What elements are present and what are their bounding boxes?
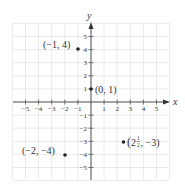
y-tick-label: 5 (84, 33, 88, 41)
x-tick-label: 5 (155, 105, 159, 113)
y-tick-label: −3 (80, 138, 88, 146)
x-tick-label: 2 (115, 105, 119, 113)
y-tick-label: 2 (84, 72, 88, 80)
point-label-0-1: (0, 1) (95, 84, 117, 96)
svg-text:2: 2 (131, 137, 136, 148)
point-neg2-neg4 (63, 153, 67, 157)
x-tick-label: −4 (35, 105, 43, 113)
x-tick-label: 3 (129, 105, 133, 113)
point-2half-neg3 (122, 140, 126, 144)
x-tick-label: −3 (48, 105, 56, 113)
coordinate-plane: x y −5−4−3−2−11234554321−1−2−3−4−5 (−1, … (0, 0, 185, 190)
point-label-neg1-4: (−1, 4) (43, 39, 70, 51)
x-tick-label: 1 (102, 105, 106, 113)
y-tick-label: −5 (80, 164, 88, 172)
x-axis-label: x (172, 96, 178, 107)
y-tick-label: 1 (84, 85, 88, 93)
point-0-1 (89, 87, 93, 91)
y-tick-label: 4 (84, 46, 88, 54)
x-tick-label: −5 (22, 105, 30, 113)
y-tick-label: −2 (80, 125, 88, 133)
point-label-2half-neg3: ( 2 1 2 , −3) (127, 135, 159, 149)
y-tick-label: −1 (80, 112, 88, 120)
point-label-neg2-neg4: (−2, −4) (22, 145, 55, 157)
x-tick-label: −2 (61, 105, 69, 113)
x-axis-arrow-icon (163, 100, 170, 105)
y-tick-label: −4 (80, 151, 88, 159)
y-axis-label: y (86, 10, 92, 21)
y-axis-arrow-icon (89, 22, 94, 29)
point-neg1-4 (76, 47, 80, 51)
y-tick-label: 3 (84, 59, 88, 67)
svg-text:, −3): , −3) (141, 137, 160, 149)
x-tick-label: 4 (142, 105, 146, 113)
